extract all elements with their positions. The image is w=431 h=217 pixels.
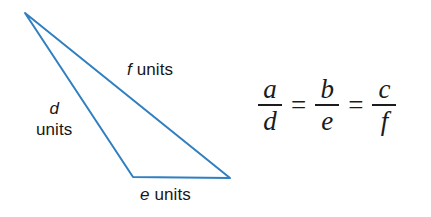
proportion-equation: a d = b e = c f <box>258 55 428 155</box>
side-label-e: e units <box>140 185 191 205</box>
fraction-numerator-b: b <box>317 75 337 104</box>
triangle-figure: f units d units e units <box>0 0 245 217</box>
side-label-d-variable: d <box>36 98 72 119</box>
fraction-c-over-f: c f <box>372 75 396 135</box>
fraction-denominator-e: e <box>318 106 336 135</box>
equals-sign-1: = <box>282 92 315 119</box>
triangle-outline <box>25 13 230 178</box>
fraction-b-over-e: b e <box>315 75 339 135</box>
fraction-a-over-d: a d <box>258 75 282 135</box>
fraction-denominator-d: d <box>260 106 280 135</box>
side-label-e-variable: e <box>140 185 150 204</box>
fraction-numerator-a: a <box>260 75 280 104</box>
fraction-denominator-f: f <box>378 106 392 135</box>
fraction-numerator-c: c <box>375 75 393 104</box>
diagram-canvas: f units d units e units a d = b e = c f <box>0 0 431 217</box>
side-label-d-units: units <box>36 119 72 140</box>
side-label-f: f units <box>127 60 173 80</box>
side-label-f-units: units <box>137 60 173 79</box>
side-label-e-units: units <box>154 185 190 204</box>
equals-sign-2: = <box>339 92 372 119</box>
side-label-d: d units <box>36 98 72 140</box>
